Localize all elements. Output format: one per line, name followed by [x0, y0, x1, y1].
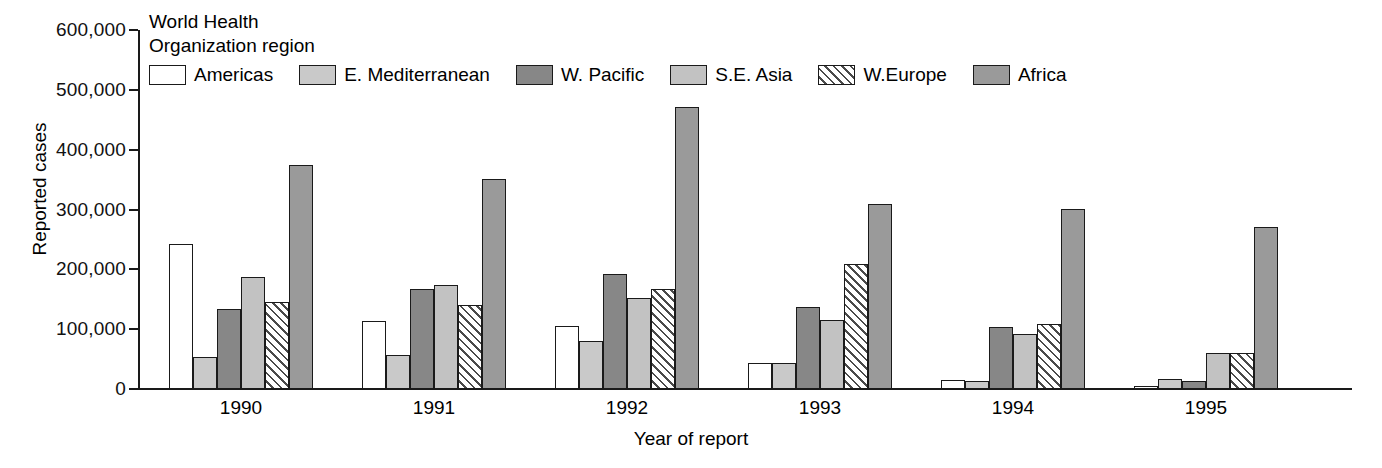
- bar: [555, 326, 579, 389]
- legend-item: W.Europe: [818, 65, 972, 85]
- bar: [1158, 379, 1182, 389]
- bar: [820, 320, 844, 389]
- bar: [217, 309, 241, 389]
- bar: [675, 107, 699, 389]
- legend-label: W.Europe: [863, 65, 946, 85]
- chart-container: 0100,000200,000300,000400,000500,000600,…: [0, 0, 1382, 468]
- bar: [772, 363, 796, 389]
- bar: [989, 327, 1013, 389]
- legend-label: Americas: [194, 65, 273, 85]
- legend-swatch-wpacific: [516, 65, 553, 85]
- bar: [482, 179, 506, 389]
- legend-swatch-africa: [973, 65, 1010, 85]
- legend-item: S.E. Asia: [670, 65, 818, 85]
- legend-items: AmericasE. MediterraneanW. PacificS.E. A…: [149, 65, 1249, 85]
- bar: [579, 341, 603, 389]
- bar: [169, 244, 193, 389]
- legend-swatch-seasia: [670, 65, 707, 85]
- bar: [603, 274, 627, 389]
- bar: [627, 298, 651, 389]
- legend-title: World Health Organization region: [149, 10, 1249, 58]
- bar: [651, 289, 675, 389]
- legend-swatch-weurope: [818, 65, 855, 85]
- bar: [289, 165, 313, 389]
- bar: [193, 357, 217, 389]
- bar: [434, 285, 458, 389]
- bar: [1230, 353, 1254, 389]
- bar: [1206, 353, 1230, 389]
- bar: [241, 277, 265, 389]
- legend: World Health Organization region America…: [149, 10, 1249, 85]
- legend-item: W. Pacific: [516, 65, 670, 85]
- bar: [1134, 386, 1158, 389]
- bar: [1254, 227, 1278, 389]
- bar: [265, 302, 289, 389]
- bar: [410, 289, 434, 389]
- bar: [458, 305, 482, 389]
- legend-item: Africa: [973, 65, 1093, 85]
- bar: [796, 307, 820, 389]
- bar: [844, 264, 868, 389]
- bar: [941, 380, 965, 389]
- legend-label: W. Pacific: [561, 65, 644, 85]
- legend-item: E. Mediterranean: [299, 65, 516, 85]
- legend-swatch-emed: [299, 65, 336, 85]
- legend-item: Americas: [149, 65, 299, 85]
- legend-label: S.E. Asia: [715, 65, 792, 85]
- legend-label: Africa: [1018, 65, 1067, 85]
- bar: [1037, 324, 1061, 389]
- bar: [965, 381, 989, 389]
- legend-swatch-americas: [149, 65, 186, 85]
- bar: [1013, 334, 1037, 389]
- bar: [386, 355, 410, 389]
- bar: [868, 204, 892, 389]
- bar: [748, 363, 772, 389]
- legend-label: E. Mediterranean: [344, 65, 490, 85]
- bar: [1061, 209, 1085, 389]
- bar: [1182, 381, 1206, 389]
- bar: [362, 321, 386, 389]
